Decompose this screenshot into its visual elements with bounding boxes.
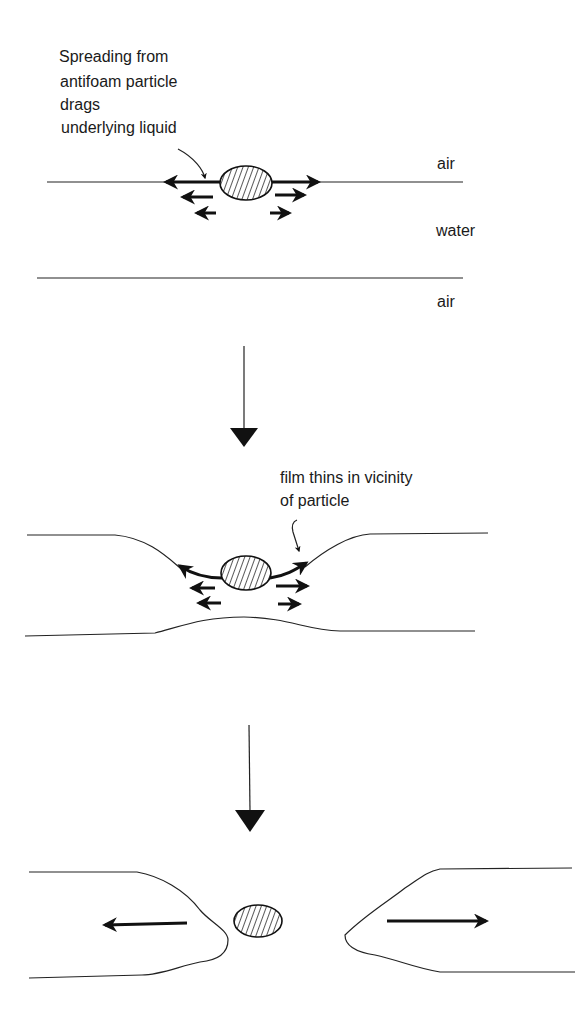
- pointer-arrow-icon: [178, 149, 205, 178]
- arrowhead-down-icon: [230, 428, 258, 447]
- transition-arrow-1: [230, 346, 258, 447]
- stage-1: Spreading from antifoam particle drags u…: [37, 48, 476, 310]
- retraction-arrow-left-icon: [105, 923, 187, 925]
- stage-2: film thins in vicinity of particle: [25, 469, 488, 636]
- spread-arrow-right-icon: [270, 563, 306, 578]
- antifoam-particle: [221, 556, 271, 590]
- annotation-spreading-line3: drags: [60, 96, 100, 113]
- antifoam-particle: [220, 166, 272, 200]
- stage-3: [29, 868, 575, 978]
- annotation-film-thins-line1: film thins in vicinity: [280, 469, 412, 486]
- annotation-film-thins-line2: of particle: [280, 492, 349, 509]
- phase-label-air-bottom: air: [437, 293, 455, 310]
- pointer-arrow-icon: [292, 520, 299, 551]
- annotation-spreading-line2: antifoam particle: [60, 73, 177, 90]
- annotation-spreading-line1: Spreading from: [59, 48, 168, 65]
- bottom-film-surface: [25, 617, 475, 636]
- transition-arrow-2: [235, 725, 265, 832]
- phase-label-air-top: air: [437, 155, 455, 172]
- annotation-spreading-line4: underlying liquid: [61, 119, 177, 136]
- phase-label-water: water: [435, 222, 476, 239]
- spread-arrow-left-icon: [180, 566, 222, 578]
- arrowhead-down-icon: [235, 810, 265, 832]
- antifoam-diagram: Spreading from antifoam particle drags u…: [0, 0, 587, 1012]
- antifoam-particle: [234, 905, 282, 937]
